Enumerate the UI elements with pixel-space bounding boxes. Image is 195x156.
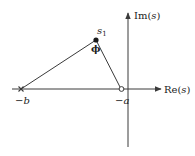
s1-point-marker [93, 37, 98, 42]
neg-a-label: −a [115, 95, 129, 106]
phi-angle-label: ϕ [91, 43, 100, 54]
neg-b-label: −b [15, 95, 30, 106]
s1-label: s1 [97, 25, 107, 38]
line-s1-to-neg-b [21, 40, 96, 89]
imaginary-axis-label: Im(s) [134, 10, 160, 21]
s-plane-diagram: Im(s) Re(s) s1 ϕ −b −a [0, 0, 195, 156]
real-axis-label: Re(s) [164, 84, 191, 95]
neg-a-open-circle-icon [119, 87, 124, 92]
